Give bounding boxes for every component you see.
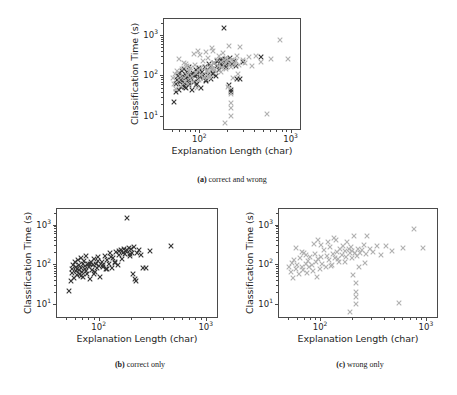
ytick-minor xyxy=(54,237,56,238)
xtick-minor xyxy=(263,130,264,132)
subplot-caption-a: (a) correct and wrong xyxy=(162,175,302,184)
xtick-minor xyxy=(243,130,244,132)
ytick-minor xyxy=(276,292,278,293)
ytick-minor xyxy=(161,37,163,38)
ytick-minor xyxy=(54,252,56,253)
xtick-minor xyxy=(82,318,83,320)
ytick-minor xyxy=(54,245,56,246)
caption-tag-a: (a) xyxy=(197,175,206,184)
xtick-minor xyxy=(131,318,132,320)
x-axis-label-a: Explanation Length (char) xyxy=(162,145,302,156)
caption-text-c: wrong only xyxy=(347,360,384,369)
xtick-major xyxy=(199,130,200,133)
ytick-major xyxy=(160,75,163,76)
xtick-minor xyxy=(88,318,89,320)
xtick-minor xyxy=(179,130,180,132)
plot-area-a xyxy=(163,18,301,130)
xtick-major xyxy=(320,318,321,321)
subplot-caption-b: (b) correct only xyxy=(70,360,210,369)
figure-root: 102103101102103Explanation Length (char)… xyxy=(0,0,457,395)
xtick-label: 103 xyxy=(277,134,305,144)
xtick-minor xyxy=(174,318,175,320)
ytick-major xyxy=(275,304,278,305)
ytick-minor xyxy=(161,84,163,85)
xtick-label: 102 xyxy=(185,134,213,144)
ytick-major xyxy=(160,35,163,36)
xtick-minor xyxy=(402,318,403,320)
xtick-label: 103 xyxy=(192,322,220,332)
xtick-label: 103 xyxy=(412,322,440,332)
xtick-minor xyxy=(270,130,271,132)
ytick-minor xyxy=(276,240,278,241)
xtick-minor xyxy=(384,318,385,320)
xtick-minor xyxy=(276,130,277,132)
ytick-minor xyxy=(276,226,278,227)
ytick-major xyxy=(160,116,163,117)
xtick-minor xyxy=(421,318,422,320)
xtick-minor xyxy=(66,318,67,320)
ytick-minor xyxy=(54,240,56,241)
ytick-minor xyxy=(54,231,56,232)
xtick-minor xyxy=(75,318,76,320)
xtick-minor xyxy=(189,318,190,320)
xtick-minor xyxy=(310,318,311,320)
xtick-minor xyxy=(163,318,164,320)
xtick-minor xyxy=(282,130,283,132)
xtick-minor xyxy=(201,318,202,320)
ytick-minor xyxy=(276,228,278,229)
caption-text-b: correct only xyxy=(127,360,165,369)
xtick-minor xyxy=(352,318,353,320)
ytick-minor xyxy=(54,268,56,269)
x-axis-label-b: Explanation Length (char) xyxy=(67,333,207,344)
xtick-major xyxy=(99,318,100,321)
ytick-minor xyxy=(161,79,163,80)
ytick-minor xyxy=(161,88,163,89)
xtick-minor xyxy=(297,318,298,320)
ytick-minor xyxy=(161,41,163,42)
ytick-minor xyxy=(276,233,278,234)
ytick-minor xyxy=(54,266,56,267)
xtick-minor xyxy=(195,318,196,320)
ytick-minor xyxy=(276,245,278,246)
ytick-minor xyxy=(54,226,56,227)
ytick-minor xyxy=(276,231,278,232)
xtick-minor xyxy=(195,130,196,132)
ytick-minor xyxy=(276,266,278,267)
xtick-label: 102 xyxy=(306,322,334,332)
ytick-minor xyxy=(161,23,163,24)
ytick-minor xyxy=(161,51,163,52)
xtick-minor xyxy=(394,318,395,320)
plot-area-b xyxy=(56,208,218,318)
xtick-minor xyxy=(150,318,151,320)
ytick-minor xyxy=(54,228,56,229)
xtick-minor xyxy=(410,318,411,320)
ytick-minor xyxy=(276,252,278,253)
ytick-major xyxy=(53,304,56,305)
subplot-caption-c: (c) wrong only xyxy=(290,360,430,369)
xtick-major xyxy=(426,318,427,321)
ytick-minor xyxy=(161,92,163,93)
xtick-minor xyxy=(172,130,173,132)
ytick-minor xyxy=(54,285,56,286)
ytick-minor xyxy=(276,285,278,286)
ytick-minor xyxy=(276,273,278,274)
ytick-minor xyxy=(161,82,163,83)
ytick-minor xyxy=(54,280,56,281)
ytick-minor xyxy=(276,280,278,281)
ytick-minor xyxy=(54,213,56,214)
ytick-minor xyxy=(161,104,163,105)
ytick-minor xyxy=(161,63,163,64)
xtick-minor xyxy=(227,130,228,132)
plot-area-c xyxy=(278,208,438,318)
xtick-minor xyxy=(182,318,183,320)
xtick-minor xyxy=(288,318,289,320)
ytick-minor xyxy=(276,271,278,272)
ytick-minor xyxy=(276,213,278,214)
xtick-minor xyxy=(315,318,316,320)
ytick-minor xyxy=(54,276,56,277)
xtick-minor xyxy=(94,318,95,320)
ytick-minor xyxy=(161,39,163,40)
y-axis-label-b: Classification Time (s) xyxy=(22,208,33,318)
ytick-minor xyxy=(276,237,278,238)
ytick-minor xyxy=(276,276,278,277)
